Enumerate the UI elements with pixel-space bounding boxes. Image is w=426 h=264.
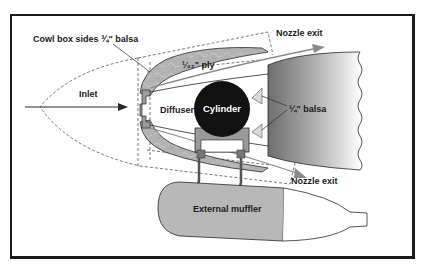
balsa-block-bottom — [252, 124, 262, 138]
label-cylinder: Cylinder — [203, 103, 241, 114]
label-nozzle-exit-top: Nozzle exit — [276, 28, 323, 38]
external-muffler — [158, 182, 367, 241]
muffler-tailpipe — [283, 188, 367, 241]
cowl-cross-section-diagram: Cowl box sides ¾" balsa ¹⁄₃₂" ply Inlet … — [0, 0, 426, 264]
cylinder — [194, 81, 250, 188]
label-external-muffler: External muffler — [193, 204, 262, 214]
nozzle-arrowhead-top — [312, 44, 325, 53]
exhaust-pipe-left — [196, 158, 199, 186]
label-inlet: Inlet — [79, 89, 98, 99]
inlet-arrowhead — [118, 103, 128, 111]
label-diffuser: Diffuser — [160, 105, 195, 115]
balsa-block-top — [252, 88, 262, 104]
label-quarter-balsa: ¼" balsa — [289, 104, 327, 114]
label-cowl-box-sides: Cowl box sides ¾" balsa — [33, 34, 139, 44]
exhaust-pipe-right — [238, 158, 241, 188]
label-ply: ¹⁄₃₂" ply — [182, 60, 214, 70]
label-nozzle-exit-bottom: Nozzle exit — [291, 176, 338, 186]
